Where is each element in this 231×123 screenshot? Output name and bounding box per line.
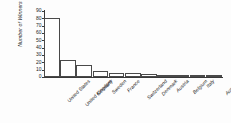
y-tick-label: 70: [36, 22, 42, 29]
y-tick-label: 0: [39, 73, 42, 80]
bar-chart: Number of Winners 0102030405060708090 Un…: [0, 0, 231, 123]
y-tick-label: 40: [36, 44, 42, 51]
bar: [60, 60, 76, 77]
bar: [93, 71, 109, 77]
y-tick-label: 10: [36, 66, 42, 73]
y-tick-label: 60: [36, 29, 42, 36]
x-axis-ticks: United StatesUnited KingdomGermanySweden…: [44, 78, 223, 123]
bar: [173, 75, 189, 77]
bar: [141, 74, 157, 77]
bar: [109, 73, 125, 77]
y-axis-title: Number of Winners: [14, 0, 26, 57]
y-tick-label: 20: [36, 59, 42, 66]
y-tick-label: 90: [36, 7, 42, 14]
bar-series: [44, 11, 222, 77]
bar: [190, 75, 206, 77]
bar: [44, 18, 60, 77]
bar: [206, 75, 222, 77]
y-tick-label: 80: [36, 15, 42, 22]
bar: [125, 73, 141, 77]
plot-area: 0102030405060708090: [44, 11, 222, 77]
x-tick-label: France: [126, 78, 141, 93]
bar: [76, 65, 92, 77]
y-tick-label: 50: [36, 37, 42, 44]
bar: [157, 75, 173, 77]
x-tick-label: Australia: [224, 78, 231, 96]
y-tick-label: 30: [36, 51, 42, 58]
